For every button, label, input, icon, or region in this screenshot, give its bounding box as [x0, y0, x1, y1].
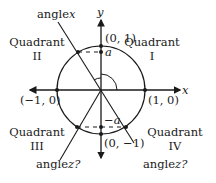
quadrant-3-numeral: III	[30, 139, 44, 153]
point-neg-a	[99, 125, 103, 129]
unit-circle-diagram: x y (0, 1) (0, −1) (−1, 0) (1, 0) a −a Q…	[0, 0, 216, 183]
point-left	[55, 88, 59, 92]
quadrant-4-numeral: IV	[169, 139, 183, 153]
point-bottom	[99, 132, 103, 136]
point-right	[143, 88, 147, 92]
angle-z-left-label: anglez?	[36, 157, 81, 171]
angle-x-var: x	[69, 7, 76, 21]
angle-z-right-prefix: angle	[143, 157, 175, 171]
quadrant-2-label: Quadrant	[9, 35, 65, 49]
quadrant-1-numeral: I	[150, 49, 155, 63]
quadrant-3-label: Quadrant	[9, 125, 65, 139]
angle-x-label: anglex	[37, 7, 76, 21]
angle-z-right-label: anglez?	[143, 157, 188, 171]
point-z-right	[124, 125, 128, 129]
point-z-left	[75, 125, 79, 129]
quadrant-2-numeral: II	[32, 49, 41, 63]
angle-z-left-prefix: angle	[36, 157, 68, 171]
angle-arc	[101, 74, 117, 90]
angle-x-prefix: angle	[37, 7, 69, 21]
point-a	[99, 50, 103, 54]
y-axis-label: y	[96, 5, 104, 19]
label-right: (1, 0)	[148, 93, 179, 107]
point-angle-x	[76, 50, 80, 54]
quadrant-1-label: Quadrant	[124, 35, 180, 49]
label-bottom: (0, −1)	[104, 136, 145, 150]
quadrant-4-label: Quadrant	[147, 125, 203, 139]
angle-z-left-var: z?	[67, 157, 81, 171]
angle-arc-small	[94, 78, 101, 80]
label-neg-a: −a	[104, 113, 121, 127]
point-top	[99, 44, 103, 48]
label-a: a	[105, 45, 112, 59]
angle-z-ray-left	[60, 90, 101, 160]
x-axis-label: x	[182, 83, 189, 97]
label-left: (−1, 0)	[20, 93, 61, 107]
angle-z-right-var: z?	[174, 157, 188, 171]
